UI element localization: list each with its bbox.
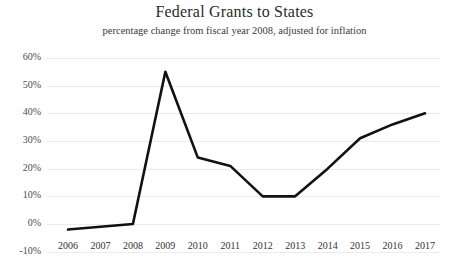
x-axis-tick-label-2017: 2017 xyxy=(415,240,435,251)
x-axis-tick-label-2009: 2009 xyxy=(155,240,175,251)
x-axis-tick-label-2014: 2014 xyxy=(318,240,338,251)
y-axis-tick-label: 0% xyxy=(0,217,41,228)
y-axis-tick-label: 40% xyxy=(0,106,41,117)
gridline-60pct xyxy=(47,58,440,59)
x-axis-tick-label-2015: 2015 xyxy=(350,240,370,251)
y-axis-tick-label: 30% xyxy=(0,134,41,145)
x-axis-tick-label-2013: 2013 xyxy=(285,240,305,251)
y-axis-tick-label: 60% xyxy=(0,51,41,62)
x-axis-tick-label-2007: 2007 xyxy=(90,240,110,251)
x-axis-tick-label-2008: 2008 xyxy=(123,240,143,251)
y-axis-tick-label: 10% xyxy=(0,189,41,200)
x-axis-tick-label-2006: 2006 xyxy=(58,240,78,251)
gridline-40pct xyxy=(47,113,440,114)
gridline-50pct xyxy=(47,86,440,87)
y-axis-tick-label: 20% xyxy=(0,162,41,173)
x-axis-tick-label-2016: 2016 xyxy=(383,240,403,251)
x-axis-tick-label-2011: 2011 xyxy=(220,240,240,251)
y-axis-tick-label: -10% xyxy=(0,245,41,256)
gridline-20pct xyxy=(47,169,440,170)
chart-container: Federal Grants to States percentage chan… xyxy=(0,0,469,269)
gridline-30pct xyxy=(47,141,440,142)
x-axis-tick-label-2010: 2010 xyxy=(188,240,208,251)
gridline-neg10pct xyxy=(47,252,440,253)
plot-area: 60%50%40%30%20%10%0%-10%2006200720082009… xyxy=(0,0,469,269)
gridline-10pct xyxy=(47,196,440,197)
x-axis-tick-label-2012: 2012 xyxy=(253,240,273,251)
y-axis-tick-label: 50% xyxy=(0,79,41,90)
gridline-0pct xyxy=(47,224,440,225)
